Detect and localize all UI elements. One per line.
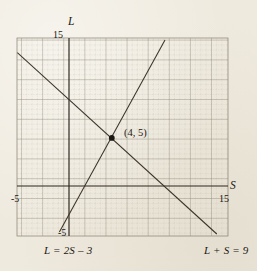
x-tick-label-15: 15 (219, 194, 229, 204)
intersection-point-label: (4, 5) (124, 128, 147, 139)
y-tick-label-15: 15 (53, 30, 63, 40)
intersection-point-marker (109, 135, 115, 141)
y-axis-label: L (68, 16, 74, 28)
grid-major (17, 38, 228, 236)
y-tick-label-minus5: -5 (58, 228, 66, 238)
x-axis-label: S (230, 180, 236, 192)
x-tick-label-minus5: -5 (11, 194, 19, 204)
equation-label-right: L + S = 9 (204, 245, 249, 256)
figure-canvas: L S 15 -5 -5 15 (4, 5) L = 2S – 3 L + S … (0, 0, 257, 271)
equation-label-left: L = 2S – 3 (44, 245, 92, 256)
